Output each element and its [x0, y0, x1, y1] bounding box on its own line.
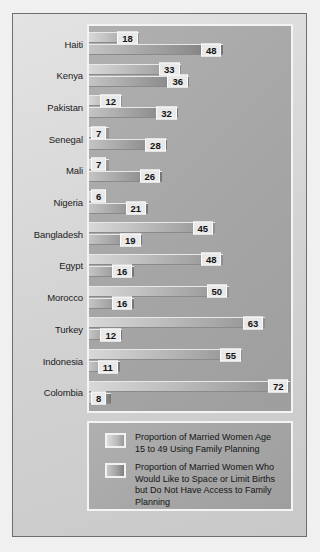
- bar-row: 19: [89, 234, 291, 245]
- category-label: Turkey: [55, 323, 83, 334]
- bar-row: 50: [89, 286, 291, 297]
- bar-row: 7: [89, 159, 291, 170]
- chart-legend: Proportion of Married Women Age 15 to 49…: [87, 421, 293, 511]
- bar-row: 11: [89, 361, 291, 372]
- bar-row: 32: [89, 107, 291, 118]
- bar-value-label: 6: [91, 190, 106, 203]
- bar-row: 21: [89, 203, 291, 214]
- bar-value-label: 8: [91, 392, 106, 405]
- bar-value-label: 18: [117, 31, 138, 44]
- bar-value-label: 72: [268, 380, 289, 393]
- bar: [89, 381, 290, 392]
- bar-group: Nigeria621: [89, 191, 291, 214]
- bar-value-label: 12: [100, 328, 121, 341]
- bar-value-label: 63: [243, 316, 264, 329]
- bar-value-label: 16: [112, 265, 133, 278]
- bar-row: 48: [89, 44, 291, 55]
- bar-group: Kenya3336: [89, 64, 291, 87]
- bar-row: 26: [89, 171, 291, 182]
- bar-value-label: 7: [91, 158, 106, 171]
- plot-panel: Haiti1848Kenya3336Pakistan1232Senegal728…: [87, 24, 293, 413]
- legend-item-0: Proportion of Married Women Age 15 to 49…: [105, 432, 283, 455]
- legend-swatch-icon-0: [105, 433, 126, 448]
- legend-label-1: Proportion of Married Women Who Would Li…: [135, 462, 283, 508]
- bar-group: Colombia728: [89, 381, 291, 404]
- legend-item-1: Proportion of Married Women Who Would Li…: [105, 462, 283, 508]
- bar-group: Turkey6312: [89, 317, 291, 340]
- bar-row: 12: [89, 329, 291, 340]
- legend-label-0: Proportion of Married Women Age 15 to 49…: [135, 432, 283, 455]
- bar-row: 45: [89, 222, 291, 233]
- bar: [89, 349, 242, 360]
- bar-value-label: 32: [156, 106, 177, 119]
- category-label: Haiti: [64, 38, 83, 49]
- bar-row: 28: [89, 139, 291, 150]
- bar-group: Egypt4816: [89, 254, 291, 277]
- category-label: Pakistan: [47, 101, 83, 112]
- bar-group: Pakistan1232: [89, 95, 291, 118]
- bar-value-label: 16: [112, 297, 133, 310]
- bar-group: Indonesia5511: [89, 349, 291, 372]
- bar-row: 8: [89, 393, 291, 404]
- bar-value-label: 28: [145, 138, 166, 151]
- bar-group: Mali726: [89, 159, 291, 182]
- category-label: Senegal: [49, 133, 83, 144]
- bar-row: 12: [89, 95, 291, 106]
- bar-group: Haiti1848: [89, 32, 291, 55]
- bar-value-label: 7: [91, 126, 106, 139]
- category-label: Colombia: [44, 387, 83, 398]
- chart-frame: Haiti1848Kenya3336Pakistan1232Senegal728…: [12, 13, 307, 537]
- bar-row: 63: [89, 317, 291, 328]
- bar-group: Morocco5016: [89, 286, 291, 309]
- category-label: Mali: [66, 165, 83, 176]
- bar-row: 18: [89, 32, 291, 43]
- bar: [89, 317, 265, 328]
- bar-row: 33: [89, 64, 291, 75]
- bar-value-label: 11: [98, 360, 118, 373]
- bar-row: 36: [89, 76, 291, 87]
- category-label: Indonesia: [43, 355, 83, 366]
- bar-row: 72: [89, 381, 291, 392]
- bar-row: 16: [89, 298, 291, 309]
- bar-group: Senegal728: [89, 127, 291, 150]
- bars-layer: Haiti1848Kenya3336Pakistan1232Senegal728…: [89, 26, 291, 411]
- category-label: Morocco: [47, 292, 83, 303]
- bar-row: 48: [89, 254, 291, 265]
- bar-value-label: 48: [201, 253, 222, 266]
- bar-value-label: 21: [126, 202, 147, 215]
- category-label: Nigeria: [54, 197, 83, 208]
- bar-group: Bangladesh4519: [89, 222, 291, 245]
- bar-value-label: 12: [100, 94, 121, 107]
- category-label: Egypt: [59, 260, 83, 271]
- category-label: Bangladesh: [34, 228, 83, 239]
- bar-row: 7: [89, 127, 291, 138]
- bar-value-label: 36: [167, 75, 188, 88]
- bar-row: 6: [89, 191, 291, 202]
- bar-value-label: 55: [220, 348, 241, 361]
- bar-row: 55: [89, 349, 291, 360]
- bar-value-label: 26: [140, 170, 161, 183]
- bar-value-label: 48: [201, 43, 222, 56]
- bar-value-label: 50: [207, 285, 228, 298]
- bar-row: 16: [89, 266, 291, 277]
- legend-swatch-icon-1: [105, 463, 126, 478]
- category-label: Kenya: [57, 70, 83, 81]
- bar-value-label: 19: [120, 233, 141, 246]
- bar-value-label: 45: [193, 221, 214, 234]
